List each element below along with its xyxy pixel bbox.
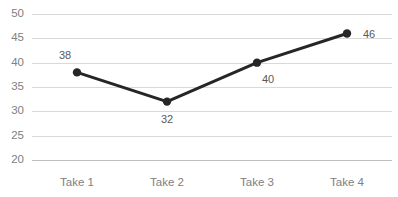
y-axis-tick-label: 20 xyxy=(11,153,24,165)
data-point-markers xyxy=(73,29,351,106)
x-axis-tick-labels: Take 1Take 2Take 3Take 4 xyxy=(60,176,364,188)
data-point-label: 46 xyxy=(363,28,375,40)
data-point-marker xyxy=(343,29,351,37)
y-axis-tick-label: 45 xyxy=(11,31,24,43)
y-axis-tick-label: 30 xyxy=(11,104,24,116)
x-axis-tick-label: Take 2 xyxy=(150,176,184,188)
y-axis-tick-label: 40 xyxy=(11,56,24,68)
data-point-label: 38 xyxy=(59,49,71,61)
y-axis-tick-label: 25 xyxy=(11,129,24,141)
x-axis-tick-label: Take 1 xyxy=(60,176,94,188)
y-axis-tick-label: 50 xyxy=(11,7,24,19)
data-point-marker xyxy=(163,97,171,105)
data-series xyxy=(77,33,347,101)
data-point-labels: 38324046 xyxy=(59,28,375,124)
data-point-marker xyxy=(253,58,261,66)
x-axis-tick-label: Take 4 xyxy=(330,176,364,188)
chart-canvas: 50454035302520 Take 1Take 2Take 3Take 4 … xyxy=(0,0,398,197)
series-line xyxy=(77,33,347,101)
line-chart: 50454035302520 Take 1Take 2Take 3Take 4 … xyxy=(0,0,398,197)
y-axis-tick-labels: 50454035302520 xyxy=(11,7,24,165)
data-point-label: 40 xyxy=(262,73,274,85)
data-point-label: 32 xyxy=(161,113,173,125)
y-axis-tick-label: 35 xyxy=(11,80,24,92)
data-point-marker xyxy=(73,68,81,76)
x-axis-tick-label: Take 3 xyxy=(240,176,274,188)
